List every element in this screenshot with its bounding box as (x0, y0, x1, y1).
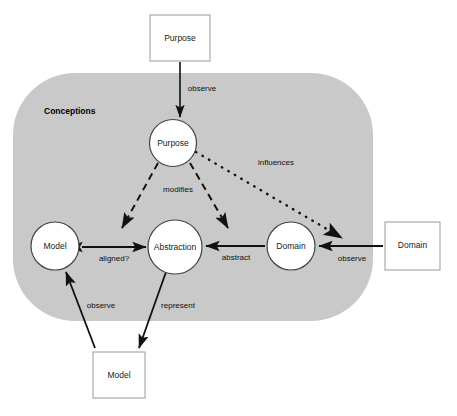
box-domain-label: Domain (398, 240, 428, 250)
node-purpose[interactable]: Purpose (150, 120, 197, 167)
edge-label-modifies: modifies (163, 185, 193, 194)
node-abstraction-label: Abstraction (154, 242, 197, 252)
edge-label-aligned: aligned? (99, 254, 130, 263)
edge-label-abstract: abstract (222, 253, 251, 262)
conceptions-label: Conceptions (44, 106, 96, 116)
edge-label-observe-domain: observe (338, 254, 367, 263)
box-domain[interactable]: Domain (385, 222, 440, 270)
box-purpose-label: Purpose (164, 33, 196, 43)
edge-label-observe-model: observe (87, 301, 116, 310)
node-domain-label: Domain (276, 241, 306, 251)
node-domain[interactable]: Domain (267, 222, 315, 270)
node-abstraction[interactable]: Abstraction (148, 220, 202, 274)
edge-label-represent: represent (161, 301, 196, 310)
node-model[interactable]: Model (31, 222, 79, 270)
diagram-canvas: Conceptions observe modifies influences … (0, 0, 457, 416)
edge-label-influences: influences (258, 158, 294, 167)
edge-label-observe-purpose: observe (188, 84, 217, 93)
box-purpose[interactable]: Purpose (150, 15, 210, 61)
conceptions-region: Conceptions (13, 73, 373, 321)
box-model-label: Model (107, 370, 130, 380)
node-purpose-label: Purpose (157, 138, 189, 148)
box-model[interactable]: Model (93, 352, 145, 398)
relationship-diagram: Conceptions observe modifies influences … (0, 0, 457, 416)
node-model-label: Model (43, 241, 66, 251)
